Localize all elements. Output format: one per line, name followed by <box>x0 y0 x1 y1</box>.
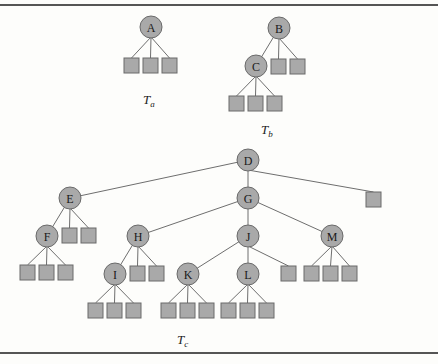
leaf-square <box>62 228 77 243</box>
node-label: E <box>66 192 73 206</box>
leaf-square <box>161 303 176 318</box>
node-label: B <box>275 22 283 36</box>
edge-h-leaf <box>138 246 157 266</box>
node-b: B <box>268 17 290 39</box>
edge-l-leaf <box>248 284 249 303</box>
edge-m-leaf <box>312 246 333 266</box>
leaf-square <box>162 58 177 73</box>
node-j: J <box>237 225 259 247</box>
edge-b-leaf <box>279 38 280 59</box>
edge-f-leaf <box>47 246 48 265</box>
edge-f-leaf <box>47 246 66 265</box>
edge-g-m <box>248 198 332 236</box>
node-label: K <box>184 268 193 282</box>
edge-i-leaf <box>115 284 116 303</box>
leaf-square <box>88 303 103 318</box>
edge-b-leaf <box>279 38 298 59</box>
node-label: F <box>44 230 51 244</box>
leaf-square <box>107 303 122 318</box>
node-label: I <box>113 268 117 282</box>
edge-m-leaf <box>331 246 333 266</box>
node-label: H <box>134 230 143 244</box>
leaf-square <box>240 303 255 318</box>
node-label: J <box>246 230 251 244</box>
node-m: M <box>321 225 343 247</box>
edge-a-leaf <box>151 37 170 58</box>
edges <box>28 28 374 303</box>
leaf-square <box>81 228 96 243</box>
node-d: D <box>237 149 259 171</box>
leaf-square <box>39 265 54 280</box>
edge-g-h <box>138 198 248 236</box>
node-label: M <box>327 230 338 244</box>
node-a: A <box>140 16 162 38</box>
edge-k-leaf <box>169 284 189 303</box>
edge-e-leaf <box>70 208 89 228</box>
node-label: L <box>244 268 251 282</box>
node-k: K <box>177 263 199 285</box>
tree-label-a: Ta <box>143 92 155 109</box>
leaf-square <box>229 96 244 111</box>
leaf-square <box>180 303 195 318</box>
node-g: G <box>237 187 259 209</box>
leaf-square <box>124 58 139 73</box>
edge-c-leaf <box>256 76 275 96</box>
node-label: A <box>147 21 156 35</box>
edge-a-leaf <box>132 37 152 58</box>
leaf-square <box>248 96 263 111</box>
node-i: I <box>104 263 126 285</box>
leaf-square <box>199 303 214 318</box>
leaf-square <box>20 265 35 280</box>
node-label: D <box>244 154 253 168</box>
edge-m-leaf <box>332 246 350 266</box>
leaf-square <box>259 303 274 318</box>
edge-l-leaf <box>248 284 267 303</box>
edge-i-leaf <box>96 284 116 303</box>
tree-label-b: Tb <box>261 122 273 139</box>
edge-k-leaf <box>188 284 189 303</box>
nodes: ABCDEGFHJMIKL <box>36 16 343 285</box>
leaf-square <box>271 59 286 74</box>
tree-diagram: ABCDEGFHJMIKL TaTbTc <box>0 0 438 364</box>
leaf-square <box>143 58 158 73</box>
leaf-square <box>304 266 319 281</box>
edge-k-leaf <box>188 284 207 303</box>
edge-c-leaf <box>237 76 257 96</box>
edge-j-leaf <box>248 246 289 266</box>
edge-d-leaf <box>248 170 374 192</box>
node-l: L <box>237 263 259 285</box>
edge-i-leaf <box>115 284 134 303</box>
edge-e-leaf <box>70 208 71 228</box>
node-h: H <box>127 225 149 247</box>
edge-h-leaf <box>138 246 139 266</box>
node-e: E <box>59 187 81 209</box>
leaf-square <box>366 192 381 207</box>
leaf-square <box>323 266 338 281</box>
edge-l-leaf <box>229 284 249 303</box>
leaf-square <box>130 266 145 281</box>
leaf-square <box>281 266 296 281</box>
edge-d-e <box>70 160 248 198</box>
edge-a-leaf <box>151 37 152 58</box>
tree-label-c: Tc <box>177 332 188 349</box>
leaf-square <box>221 303 236 318</box>
node-f: F <box>36 225 58 247</box>
leaf-square <box>267 96 282 111</box>
leaf-square <box>149 266 164 281</box>
node-label: G <box>244 192 253 206</box>
node-c: C <box>245 55 267 77</box>
leaf-square <box>290 59 305 74</box>
node-label: C <box>252 60 260 74</box>
edge-f-leaf <box>28 246 48 265</box>
edge-c-leaf <box>256 76 257 96</box>
leaf-square <box>58 265 73 280</box>
leaf-square <box>126 303 141 318</box>
leaf-square <box>342 266 357 281</box>
